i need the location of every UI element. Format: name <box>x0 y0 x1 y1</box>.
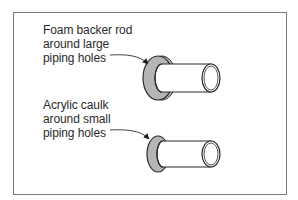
small-pipe-assembly <box>147 136 220 172</box>
pipe-illustration <box>0 0 298 200</box>
callout-arrow-large <box>110 55 147 63</box>
callout-arrow-small <box>110 130 148 138</box>
large-pipe-end <box>202 64 220 92</box>
large-pipe-assembly <box>143 56 220 100</box>
small-pipe-end <box>202 141 220 167</box>
